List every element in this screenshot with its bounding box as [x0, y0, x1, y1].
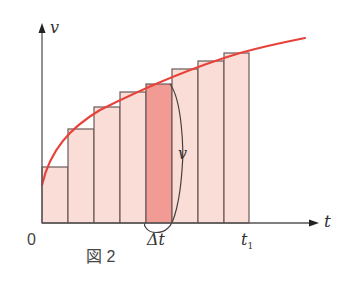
bar-height-label: v	[178, 146, 187, 162]
bar-4	[120, 92, 146, 223]
bar-7	[198, 61, 224, 223]
y-axis-arrow-icon	[39, 23, 46, 33]
bar-8	[224, 53, 249, 223]
origin-label: 0	[27, 232, 36, 248]
bars	[42, 53, 249, 223]
x-axis-arrow-icon	[309, 220, 319, 227]
delta-t-label: Δt	[147, 232, 165, 248]
riemann-sum-diagram	[0, 0, 353, 284]
bar-2	[68, 129, 94, 223]
t1-subscript: 1	[247, 241, 253, 251]
bar-1	[42, 167, 68, 223]
x-axis-label: t	[324, 213, 331, 230]
bar-3	[94, 107, 120, 223]
y-axis-label: v	[50, 20, 59, 36]
t1-label: t1	[241, 232, 253, 251]
figure-caption: 図 2	[86, 249, 115, 265]
bar-5-highlighted	[146, 84, 172, 223]
